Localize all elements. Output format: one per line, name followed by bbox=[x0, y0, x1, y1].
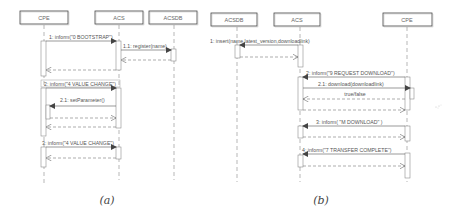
activation-bar bbox=[46, 105, 50, 119]
lifeline-acsdb-a: ACSDB bbox=[149, 11, 198, 180]
message: 2: inform("4 VALUE CHANGE") bbox=[41, 80, 120, 88]
activation-bar bbox=[410, 88, 414, 99]
activation-bar bbox=[116, 88, 121, 128]
activation-bar bbox=[405, 153, 410, 178]
svg-text:2.1: setParameter(): 2.1: setParameter() bbox=[60, 97, 105, 103]
message: 1.1: register(name) bbox=[121, 43, 171, 50]
activation-bar bbox=[171, 49, 176, 61]
svg-text:1: inform("0 BOOTSTRAP"): 1: inform("0 BOOTSTRAP") bbox=[49, 34, 113, 40]
scan-artifact bbox=[436, 105, 442, 109]
return-message: true/false bbox=[303, 91, 405, 99]
svg-text:2: inform("4 VALUE CHANGE"): 2: inform("4 VALUE CHANGE") bbox=[44, 81, 116, 87]
activation-bar bbox=[298, 155, 303, 167]
svg-text:1: insert(name,latest_version,: 1: insert(name,latest_version,downloadli… bbox=[210, 38, 310, 44]
message: 2.1: setParameter() bbox=[50, 97, 116, 106]
lifeline-label: CPE bbox=[38, 15, 50, 21]
message: 1: insert(name,latest_version,downloadli… bbox=[210, 38, 310, 45]
activation-bar bbox=[298, 77, 303, 110]
activation-bar bbox=[116, 147, 121, 159]
message: 3: inform("4 VALUE CHANGE") bbox=[42, 140, 116, 147]
svg-text:2: inform("9 REQUEST DOWNLOAD": 2: inform("9 REQUEST DOWNLOAD") bbox=[306, 70, 395, 76]
lifeline-label: CPE bbox=[401, 17, 413, 23]
svg-text:4: inform("7 TRANSFER COMPLETE: 4: inform("7 TRANSFER COMPLETE") bbox=[302, 147, 392, 153]
activation-bar bbox=[41, 41, 46, 76]
activation-bar bbox=[405, 126, 410, 141]
svg-text:1.1: register(name): 1.1: register(name) bbox=[123, 43, 167, 49]
lifeline-label: ACSDB bbox=[164, 15, 183, 21]
activation-bar bbox=[41, 147, 46, 167]
activation-bar bbox=[298, 45, 303, 67]
caption-a: (a) bbox=[99, 194, 114, 207]
activation-bar bbox=[298, 126, 303, 138]
activation-bar bbox=[116, 41, 121, 70]
message: 2.1: download(downloadlink) bbox=[303, 81, 410, 88]
message: 1: inform("0 BOOTSTRAP") bbox=[46, 34, 116, 41]
message: 3: inform( "M DOWNLOAD" ) bbox=[303, 119, 405, 126]
message: 2: inform("9 REQUEST DOWNLOAD") bbox=[303, 70, 405, 77]
svg-text:true/false: true/false bbox=[344, 91, 365, 97]
activation-bar bbox=[41, 88, 46, 136]
svg-text:2.1: download(downloadlink): 2.1: download(downloadlink) bbox=[318, 81, 384, 87]
svg-text:3: inform( "M DOWNLOAD" ): 3: inform( "M DOWNLOAD" ) bbox=[316, 119, 383, 125]
lifeline-label: ACS bbox=[113, 15, 125, 21]
diagram-b: ACSDB ACS CPE 1: insert(name,latest_vers… bbox=[210, 13, 441, 207]
lifeline-label: ACSDB bbox=[225, 17, 244, 23]
activation-bar bbox=[235, 45, 240, 58]
diagram-a: CPE ACS ACSDB 1: inform("0 BOOTSTRAP") bbox=[20, 11, 198, 207]
lifeline-label: ACS bbox=[291, 17, 303, 23]
activation-bar bbox=[405, 77, 410, 110]
caption-b: (b) bbox=[313, 194, 329, 207]
svg-text:3: inform("4 VALUE CHANGE"): 3: inform("4 VALUE CHANGE") bbox=[42, 140, 114, 146]
sequence-diagrams: CPE ACS ACSDB 1: inform("0 BOOTSTRAP") bbox=[0, 0, 455, 221]
message: 4: inform("7 TRANSFER COMPLETE") bbox=[302, 147, 405, 154]
